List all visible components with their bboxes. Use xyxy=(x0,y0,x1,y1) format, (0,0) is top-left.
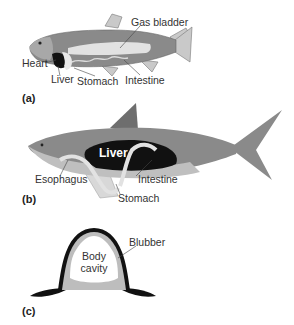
shark-dorsal-fin xyxy=(110,103,138,130)
label-intestine-shark: Intestine xyxy=(138,173,178,185)
label-stomach-fish: Stomach xyxy=(77,75,118,87)
label-cavity: cavity xyxy=(73,262,115,274)
dorsal-fin xyxy=(105,14,122,28)
diagram-canvas xyxy=(0,0,294,325)
shark-eye xyxy=(41,144,44,147)
label-esophagus: Esophagus xyxy=(35,173,88,185)
label-gas-bladder: Gas bladder xyxy=(131,16,188,28)
fish-eye xyxy=(38,41,41,44)
label-liver-shark: Liver xyxy=(99,146,128,160)
label-stomach-shark: Stomach xyxy=(118,192,159,204)
label-body-cavity: Body cavity xyxy=(73,250,115,274)
label-blubber: Blubber xyxy=(129,236,165,248)
label-heart: Heart xyxy=(22,57,48,69)
panel-label-a: (a) xyxy=(22,92,35,104)
shark-tail xyxy=(230,110,282,180)
panel-label-c: (c) xyxy=(22,305,35,317)
label-intestine-fish: Intestine xyxy=(125,74,165,86)
label-body: Body xyxy=(73,250,115,262)
panel-label-b: (b) xyxy=(22,193,36,205)
label-liver-fish: Liver xyxy=(51,73,74,85)
